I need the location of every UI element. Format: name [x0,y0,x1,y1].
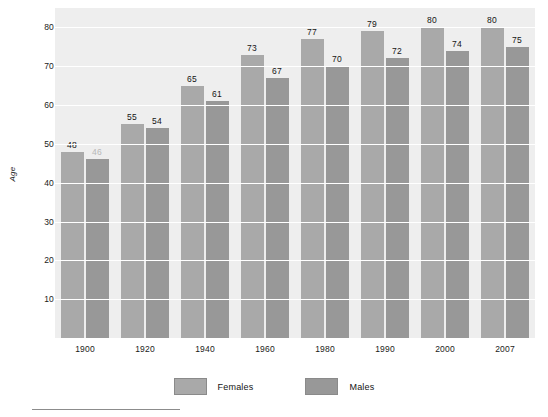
y-axis-tick: 20 [26,255,54,265]
bar-value-label: 75 [502,35,532,45]
gridline [55,27,535,28]
legend-item-females[interactable]: Females [174,378,254,395]
gridline [55,222,535,223]
bar-value-label: 72 [382,46,412,56]
bar-value-label: 77 [297,27,327,37]
bars-layer: 48465554656173677770797280748075 [55,8,535,338]
gridline [55,66,535,67]
y-axis-tick-labels: 1020304050607080 [26,8,54,338]
y-axis-tick: 50 [26,139,54,149]
bar-group: 7972 [355,8,415,338]
x-axis-tick-2000: 2000 [415,344,475,354]
legend-swatch-icon [174,378,207,395]
bar-male-1940[interactable] [206,101,229,338]
bar-male-2007[interactable] [506,47,529,338]
bar-chart-figure: Age 1020304050607080 4846555465617367777… [0,0,548,417]
legend-swatch-icon [305,378,338,395]
chart-legend: FemalesMales [0,378,548,395]
bar-male-1900[interactable] [86,159,109,338]
legend-label: Females [218,382,254,392]
bar-female-1920[interactable] [121,124,144,338]
bar-value-label: 80 [477,15,507,25]
bar-value-label: 80 [417,15,447,25]
bar-value-label: 46 [82,147,112,157]
x-axis-tick-1900: 1900 [55,344,115,354]
y-axis-tick: 40 [26,178,54,188]
x-axis-tick-2007: 2007 [475,344,535,354]
gridline [55,183,535,184]
bar-group: 8075 [475,8,535,338]
bar-group: 8074 [415,8,475,338]
bar-value-label: 54 [142,116,172,126]
bar-male-1990[interactable] [386,58,409,338]
x-axis-tick-1990: 1990 [355,344,415,354]
bar-group: 7367 [235,8,295,338]
bar-group: 4846 [55,8,115,338]
y-axis-tick: 60 [26,100,54,110]
bar-value-label: 74 [442,39,472,49]
x-axis-tick-labels: 19001920194019601980199020002007 [55,340,535,360]
bar-value-label: 65 [177,74,207,84]
bar-female-1980[interactable] [301,39,324,338]
bar-value-label: 67 [262,66,292,76]
gridline [55,105,535,106]
x-axis-tick-1960: 1960 [235,344,295,354]
gridline [55,299,535,300]
bar-group: 7770 [295,8,355,338]
bar-value-label: 61 [202,89,232,99]
bar-male-2000[interactable] [446,51,469,338]
y-axis-tick: 80 [26,22,54,32]
y-axis-tick: 70 [26,61,54,71]
gridline [55,260,535,261]
gridline [55,144,535,145]
x-axis-tick-1940: 1940 [175,344,235,354]
bar-group: 6561 [175,8,235,338]
bar-group: 5554 [115,8,175,338]
bar-value-label: 73 [237,43,267,53]
plot-area: 48465554656173677770797280748075 [55,8,535,338]
y-axis-tick: 30 [26,217,54,227]
bar-female-1900[interactable] [61,152,84,338]
x-axis-tick-1920: 1920 [115,344,175,354]
y-axis-tick: 10 [26,294,54,304]
bar-value-label: 70 [322,54,352,64]
legend-label: Males [349,382,374,392]
legend-item-males[interactable]: Males [305,378,374,395]
bar-female-1990[interactable] [361,31,384,338]
bar-female-1960[interactable] [241,55,264,338]
footer-divider [32,409,180,410]
bar-male-1920[interactable] [146,128,169,338]
bar-male-1980[interactable] [326,66,349,338]
x-axis-tick-1980: 1980 [295,344,355,354]
y-axis-title: Age [8,154,17,194]
